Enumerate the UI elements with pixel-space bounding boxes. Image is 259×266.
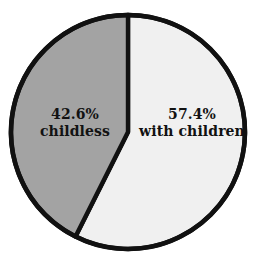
pie-label-with-children: 57.4% with children [133, 106, 251, 140]
pie-label-with-children-name: with children [133, 123, 251, 140]
pie-label-with-children-value: 57.4% [133, 106, 251, 123]
pie-label-childless-value: 42.6% [22, 106, 128, 123]
pie-label-childless-name: childless [22, 123, 128, 140]
pie-label-childless: 42.6% childless [22, 106, 128, 140]
pie-chart: 42.6% childless 57.4% with children [0, 0, 259, 266]
